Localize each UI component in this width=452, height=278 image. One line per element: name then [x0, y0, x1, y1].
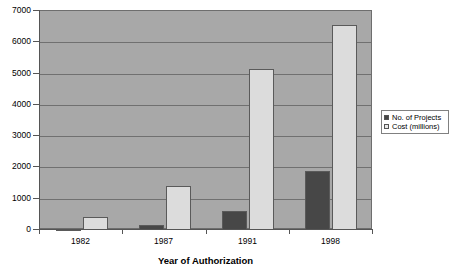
- bar: [166, 186, 191, 230]
- x-axis-label: 1991: [206, 237, 289, 246]
- legend-item: Cost (millions): [384, 123, 446, 131]
- y-axis-tick: [33, 73, 39, 74]
- x-axis-label: 1998: [289, 237, 372, 246]
- y-axis-tick: [33, 104, 39, 105]
- legend-label: No. of Projects: [392, 114, 441, 122]
- x-axis-tick: [289, 229, 290, 234]
- gridline: [40, 167, 371, 168]
- y-axis-tick: [33, 198, 39, 199]
- legend-swatch-icon: [384, 124, 389, 129]
- y-axis-label: 4000: [0, 100, 31, 109]
- y-axis-tick: [33, 10, 39, 11]
- y-axis-label: 5000: [0, 69, 31, 78]
- plot-area: [39, 10, 372, 229]
- x-axis-tick: [122, 229, 123, 234]
- legend-swatch-icon: [384, 115, 389, 120]
- y-axis-label: 3000: [0, 131, 31, 140]
- x-axis-label: 1987: [122, 237, 205, 246]
- gridline: [40, 136, 371, 137]
- gridline: [40, 42, 371, 43]
- bar: [305, 171, 330, 230]
- y-axis-tick: [33, 41, 39, 42]
- y-axis-tick: [33, 166, 39, 167]
- y-axis-label: 6000: [0, 37, 31, 46]
- x-axis-title: Year of Authorization: [39, 256, 372, 266]
- y-axis-label: 0: [0, 225, 31, 234]
- y-axis-line: [39, 10, 40, 229]
- bar: [222, 211, 247, 230]
- x-axis-tick: [39, 229, 40, 234]
- gridline: [40, 105, 371, 106]
- chart-legend: No. of Projects Cost (millions): [381, 110, 449, 134]
- bar: [249, 69, 274, 230]
- bar-chart: 01000200030004000500060007000 1982198719…: [0, 0, 452, 278]
- x-axis-tick: [372, 229, 373, 234]
- bar: [332, 25, 357, 230]
- y-axis-label: 7000: [0, 6, 31, 15]
- x-axis-label: 1982: [39, 237, 122, 246]
- y-axis-tick: [33, 135, 39, 136]
- y-axis-label: 2000: [0, 162, 31, 171]
- legend-label: Cost (millions): [392, 123, 440, 131]
- legend-item: No. of Projects: [384, 114, 446, 122]
- x-axis-tick: [206, 229, 207, 234]
- y-axis-label: 1000: [0, 194, 31, 203]
- gridline: [40, 74, 371, 75]
